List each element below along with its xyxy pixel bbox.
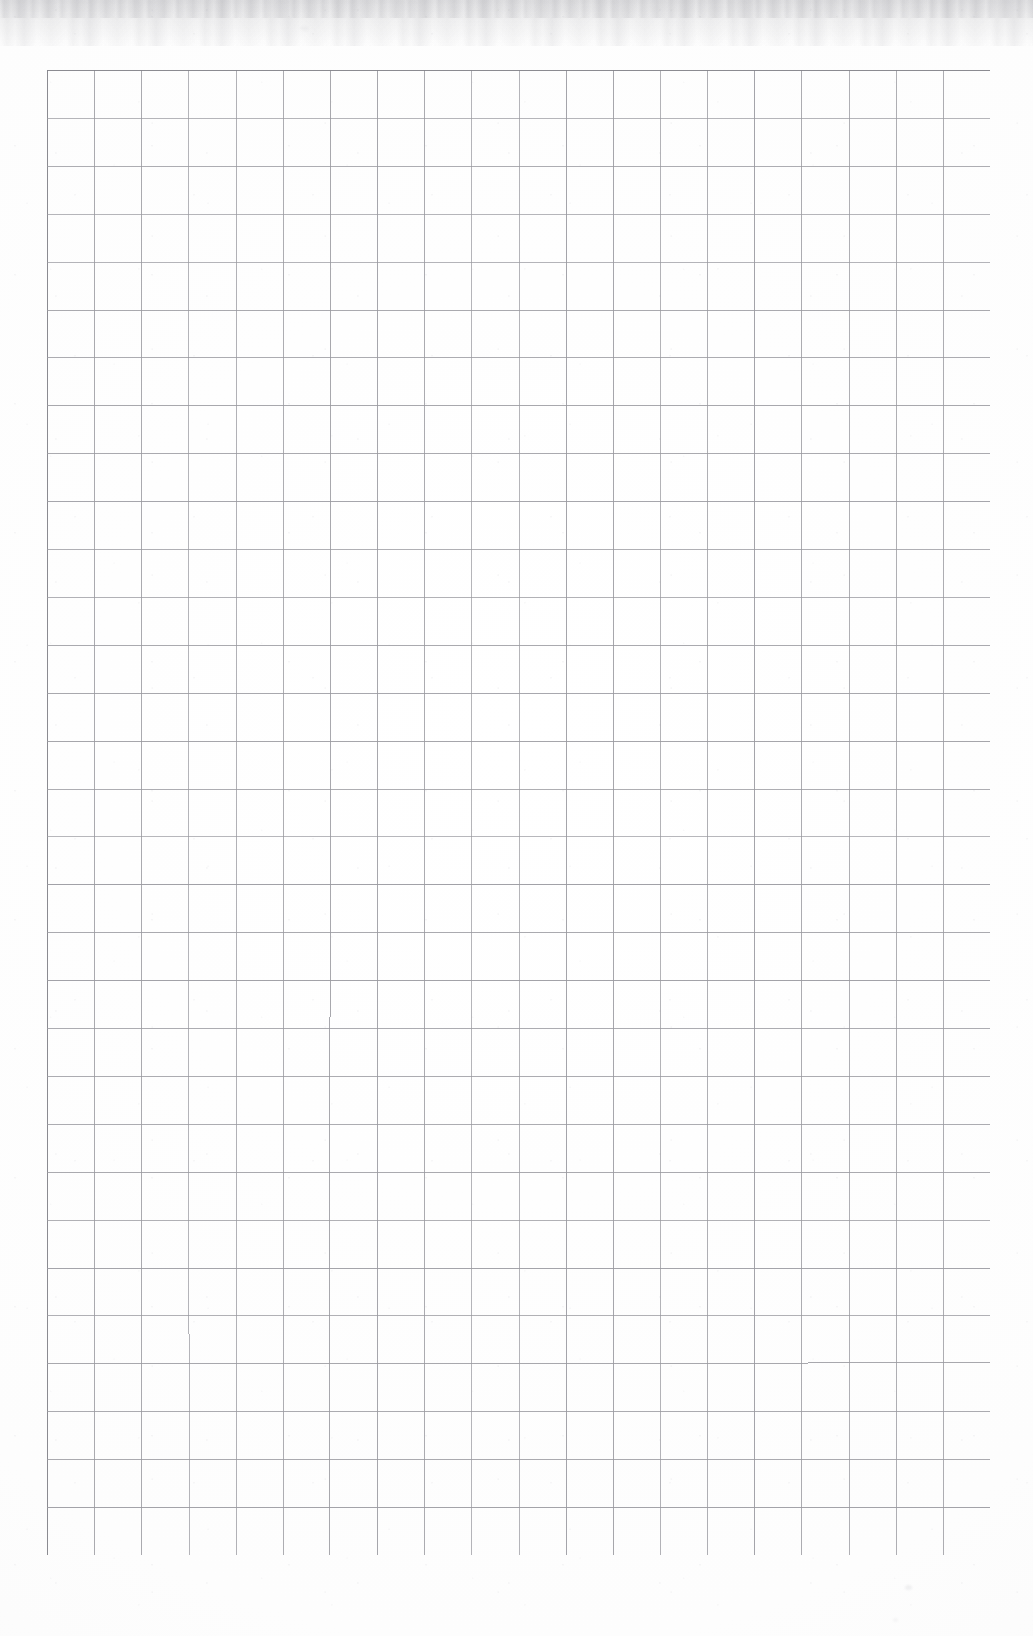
scanned-page xyxy=(0,0,1033,1636)
graph-grid xyxy=(47,70,990,1555)
graph-grid-lines xyxy=(47,70,990,1555)
scan-shadow-band-top xyxy=(0,0,1033,46)
paper-background xyxy=(0,0,1033,1636)
margin-smudge-3 xyxy=(300,26,309,31)
margin-smudge-2 xyxy=(893,1618,898,1622)
paper-speckle-texture xyxy=(0,0,1033,1636)
scan-shadow-band-top-dark xyxy=(0,0,1033,18)
graph-grid-svg xyxy=(47,70,990,1555)
margin-smudge-1 xyxy=(905,1585,912,1590)
